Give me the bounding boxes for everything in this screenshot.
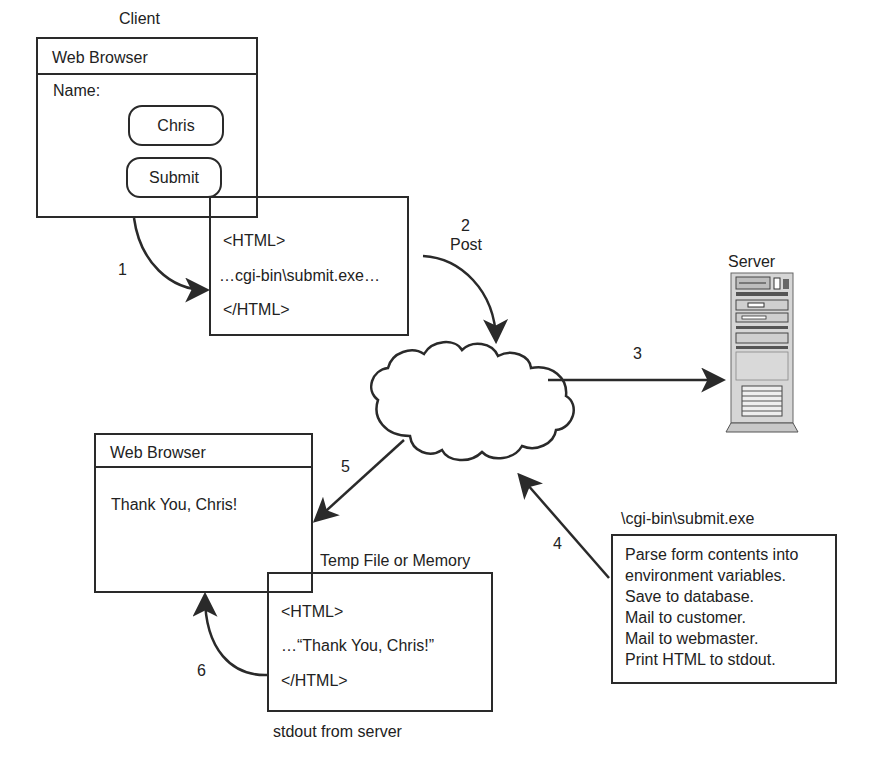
response-html-line-1: <HTML> [281, 604, 343, 620]
internet-cloud-icon [371, 342, 574, 460]
cgi-step-4: Mail to customer. [625, 607, 746, 628]
arrow-6 [205, 596, 267, 675]
response-html-document: <HTML> …“Thank You, Chris!” </HTML> [267, 572, 493, 712]
cgi-step-5: Mail to webmaster. [625, 628, 758, 649]
result-browser-titlebar: Web Browser [96, 435, 311, 468]
client-browser-titlebar: Web Browser [38, 39, 256, 75]
cgi-program-box: Parse form contents into environment var… [611, 534, 837, 684]
arrow-5 [316, 440, 404, 520]
submit-button-label: Submit [149, 169, 199, 187]
temp-file-label: Temp File or Memory [320, 553, 470, 569]
arrow-4 [520, 476, 609, 578]
result-browser-window: Web Browser Thank You, Chris! [94, 433, 313, 593]
step-5-label: 5 [341, 459, 350, 475]
cgi-step-1: Parse form contents into [625, 544, 798, 565]
request-html-line-2: …cgi-bin\submit.exe… [219, 268, 380, 284]
step-1-label: 1 [118, 262, 127, 278]
response-html-line-3: </HTML> [281, 673, 348, 689]
step-6-label: 6 [197, 663, 206, 679]
step-2-label: 2 [461, 218, 470, 234]
cgi-step-6: Print HTML to stdout. [625, 649, 776, 670]
server-icon [726, 273, 798, 432]
client-browser-window: Web Browser Name: Chris Submit [36, 37, 258, 218]
step-4-label: 4 [553, 536, 562, 552]
name-input-value: Chris [157, 117, 194, 135]
request-html-line-1: <HTML> [223, 233, 285, 249]
server-label: Server [728, 254, 775, 270]
response-html-line-2: …“Thank You, Chris!” [281, 638, 434, 654]
stdout-caption: stdout from server [273, 724, 402, 740]
thank-you-message: Thank You, Chris! [111, 497, 237, 513]
cgi-step-3: Save to database. [625, 586, 754, 607]
arrow-1 [134, 218, 206, 290]
cgi-step-2: environment variables. [625, 565, 786, 586]
client-label: Client [119, 11, 160, 27]
submit-button[interactable]: Submit [126, 157, 222, 198]
cgi-program-label: \cgi-bin\submit.exe [621, 511, 754, 527]
arrow-2-post [423, 256, 496, 340]
request-html-line-3: </HTML> [223, 302, 290, 318]
step-2-post-label: Post [450, 237, 482, 253]
request-html-document: <HTML> …cgi-bin\submit.exe… </HTML> [209, 196, 409, 336]
name-field-label: Name: [53, 83, 100, 99]
step-3-label: 3 [633, 346, 642, 362]
name-input[interactable]: Chris [128, 105, 224, 146]
